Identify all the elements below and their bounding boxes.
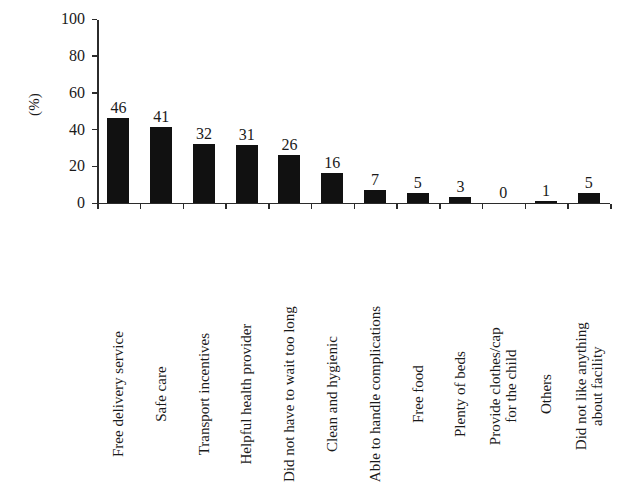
x-category-label-text: Did not like anythingabout facility [572, 322, 604, 450]
y-tick: 60 [92, 92, 97, 94]
x-category-label: Did not like anythingabout facility [494, 212, 640, 402]
y-tick: 40 [92, 129, 97, 131]
bar[interactable]: 16 [321, 173, 343, 202]
bar-value-label: 41 [153, 109, 169, 125]
bar-value-label: 1 [542, 183, 550, 199]
bar-value-label: 31 [239, 127, 255, 143]
x-category-label-line: about facility [589, 322, 605, 450]
y-tick-label: 60 [69, 85, 85, 101]
y-axis-label: (%) [26, 85, 43, 125]
bar[interactable]: 31 [236, 145, 258, 202]
x-tick [439, 204, 441, 209]
bar[interactable]: 32 [193, 144, 215, 203]
x-tick [567, 204, 569, 209]
y-tick-label: 20 [69, 158, 85, 174]
bar[interactable]: 26 [278, 155, 300, 203]
y-tick: 20 [92, 166, 97, 168]
x-tick [225, 204, 227, 209]
x-tick [610, 204, 612, 209]
bar-chart-figure: (%) 020406080100 464132312616753015 Free… [0, 0, 640, 486]
bar[interactable]: 5 [407, 193, 429, 202]
bar[interactable]: 1 [535, 201, 557, 203]
y-tick-label: 80 [69, 48, 85, 64]
bar-value-label: 46 [110, 100, 126, 116]
x-tick [525, 204, 527, 209]
x-tick [396, 204, 398, 209]
x-tick [140, 204, 142, 209]
y-tick-label: 0 [77, 195, 85, 211]
y-tick: 100 [92, 19, 97, 21]
bar[interactable]: 5 [578, 193, 600, 202]
bar[interactable]: 41 [150, 127, 172, 202]
bar-value-label: 5 [585, 175, 593, 191]
y-axis-line [97, 20, 99, 204]
x-tick [268, 204, 270, 209]
bar-value-label: 16 [324, 155, 340, 171]
bar-value-label: 26 [281, 137, 297, 153]
bar-value-label: 5 [414, 175, 422, 191]
x-tick [97, 204, 99, 209]
y-tick-label: 100 [61, 11, 85, 27]
bar-value-label: 3 [456, 179, 464, 195]
bar[interactable]: 46 [107, 118, 129, 203]
bar[interactable]: 3 [449, 197, 471, 203]
x-tick [311, 204, 313, 209]
bar-value-label: 7 [371, 172, 379, 188]
x-tick [482, 204, 484, 209]
x-tick [183, 204, 185, 209]
y-tick-label: 40 [69, 121, 85, 137]
x-tick [354, 204, 356, 209]
bar-value-label: 0 [499, 185, 507, 201]
x-category-label-line: Did not like anything [572, 322, 588, 450]
bar-value-label: 32 [196, 126, 212, 142]
bar[interactable]: 7 [364, 190, 386, 203]
plot-area: 020406080100 464132312616753015 [97, 20, 610, 204]
y-tick: 80 [92, 55, 97, 57]
